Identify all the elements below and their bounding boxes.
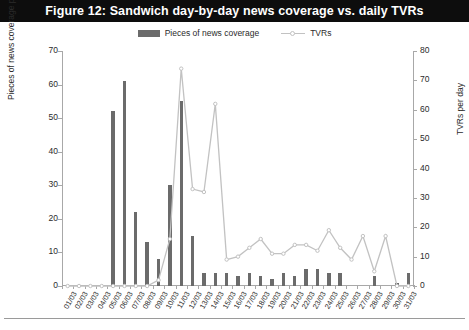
y-ticklabel-left: 70 (38, 45, 58, 55)
y-ticklabel-left: 50 (38, 112, 58, 122)
line-marker-04-03 (100, 284, 103, 287)
line-marker-17-03 (248, 246, 251, 249)
line-marker-06-03 (123, 284, 126, 287)
x-axis-ticklabels: 01/0302/0303/0304/0305/0306/0307/0308/03… (62, 290, 414, 330)
y-ticklabel-right: 30 (420, 192, 440, 202)
y-ticklabel-right: 80 (420, 45, 440, 55)
line-marker-12-03 (191, 187, 194, 190)
line-marker-19-03 (270, 252, 273, 255)
x-tick (414, 285, 415, 289)
chart-legend: Pieces of news coverage TVRs (0, 26, 469, 40)
line-marker-20-03 (282, 252, 285, 255)
line-marker-03-03 (89, 284, 92, 287)
line-marker-16-03 (236, 255, 239, 258)
line-marker-25-03 (338, 246, 341, 249)
y-ticklabel-right: 70 (420, 74, 440, 84)
line-marker-09-03 (157, 278, 160, 281)
line-marker-15-03 (225, 258, 228, 261)
y-ticklabel-left: 40 (38, 146, 58, 156)
legend-label-news-coverage: Pieces of news coverage (165, 28, 260, 38)
y-ticklabel-right: 40 (420, 163, 440, 173)
y-ticklabel-left: 10 (38, 246, 58, 256)
line-marker-18-03 (259, 237, 262, 240)
y-ticklabel-right: 60 (420, 104, 440, 114)
legend-label-tvrs: TVRs (310, 28, 331, 38)
line-marker-14-03 (214, 102, 217, 105)
y-ticklabel-right: 10 (420, 251, 440, 261)
figure-title-banner: Figure 12: Sandwich day-by-day news cove… (0, 0, 469, 22)
line-marker-23-03 (316, 249, 319, 252)
legend-item-tvrs: TVRs (281, 28, 331, 38)
line-marker-27-03 (361, 234, 364, 237)
y-ticklabel-right: 50 (420, 133, 440, 143)
y-ticklabel-left: 20 (38, 213, 58, 223)
chart-plot-region: Pieces of news coverage per day TVRs per… (0, 40, 469, 315)
y-ticklabel-right: 20 (420, 221, 440, 231)
line-marker-28-03 (373, 270, 376, 273)
line-marker-01-03 (66, 284, 69, 287)
line-marker-08-03 (145, 284, 148, 287)
line-marker-31-03 (407, 284, 410, 287)
line-marker-05-03 (111, 284, 114, 287)
y-axis-right-ticklabels: 01020304050607080 (420, 51, 442, 286)
y-axis-left-ticklabels: 010203040506070 (36, 51, 58, 286)
legend-line-swatch-icon (281, 30, 305, 37)
line-marker-29-03 (384, 234, 387, 237)
line-marker-24-03 (327, 228, 330, 231)
line-marker-26-03 (350, 258, 353, 261)
line-marker-11-03 (180, 67, 183, 70)
line-marker-21-03 (293, 243, 296, 246)
y-axis-left-title: Pieces of news coverage per day (6, 0, 16, 100)
y-axis-right-title: TVRs per day (455, 83, 465, 135)
line-marker-13-03 (202, 190, 205, 193)
line-marker-30-03 (395, 284, 398, 287)
y-ticklabel-right: 0 (420, 280, 440, 290)
plot-canvas (62, 51, 414, 286)
line-marker-22-03 (304, 243, 307, 246)
footer-divider (4, 318, 465, 319)
line-marker-07-03 (134, 284, 137, 287)
line-marker-10-03 (168, 237, 171, 240)
line-marker-02-03 (77, 284, 80, 287)
y-ticklabel-left: 60 (38, 79, 58, 89)
page-title: Figure 12: Sandwich day-by-day news cove… (45, 4, 423, 18)
line-series-tvrs (62, 51, 414, 286)
legend-item-news-coverage: Pieces of news coverage (138, 28, 260, 38)
legend-bar-swatch-icon (138, 30, 160, 37)
y-ticklabel-left: 30 (38, 179, 58, 189)
y-ticklabel-left: 0 (38, 280, 58, 290)
